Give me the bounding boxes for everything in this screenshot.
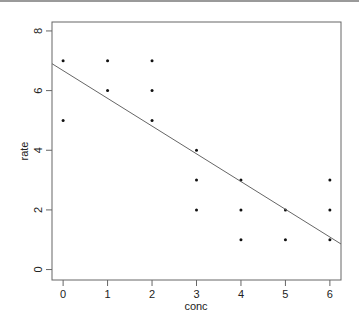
data-point xyxy=(328,238,331,241)
data-point xyxy=(239,208,242,211)
x-tick-label: 1 xyxy=(105,288,111,300)
y-tick-label: 0 xyxy=(32,266,44,272)
x-tick-label: 4 xyxy=(238,288,244,300)
y-tick-label: 4 xyxy=(32,147,44,153)
x-tick-label: 5 xyxy=(282,288,288,300)
data-point xyxy=(106,59,109,62)
scatter-plot: 02468 0123456 conc rate xyxy=(0,0,359,328)
x-axis: 0123456 xyxy=(60,280,333,300)
data-point xyxy=(328,179,331,182)
y-tick-label: 8 xyxy=(32,28,44,34)
data-point xyxy=(195,179,198,182)
data-point xyxy=(62,59,65,62)
data-point xyxy=(151,89,154,92)
data-point xyxy=(151,59,154,62)
regression-line xyxy=(52,64,341,244)
y-tick-label: 2 xyxy=(32,207,44,213)
data-point xyxy=(284,238,287,241)
y-axis: 02468 xyxy=(32,28,52,273)
y-axis-title: rate xyxy=(18,142,30,161)
x-tick-label: 2 xyxy=(149,288,155,300)
data-point xyxy=(106,89,109,92)
y-tick-label: 6 xyxy=(32,88,44,94)
x-axis-title: conc xyxy=(184,300,208,312)
data-points xyxy=(62,59,332,241)
x-tick-label: 3 xyxy=(193,288,199,300)
data-point xyxy=(62,119,65,122)
data-point xyxy=(195,149,198,152)
x-tick-label: 6 xyxy=(327,288,333,300)
data-point xyxy=(151,119,154,122)
x-tick-label: 0 xyxy=(60,288,66,300)
data-point xyxy=(328,208,331,211)
data-point xyxy=(195,208,198,211)
data-point xyxy=(239,238,242,241)
